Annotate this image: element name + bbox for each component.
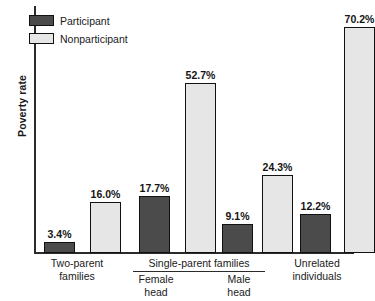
- bar-female-head-participant: 17.7%: [139, 196, 170, 253]
- bar-value-label: 16.0%: [91, 188, 121, 200]
- x-sublabel-line2: head: [118, 286, 194, 299]
- x-label-single-parent-families: Single-parent families: [119, 257, 279, 270]
- bar-value-label: 9.1%: [226, 210, 250, 222]
- bar-rect: [44, 242, 75, 253]
- x-label-line1: Unrelated: [276, 257, 358, 270]
- bar-rect: [300, 214, 331, 253]
- bar-unrelated-nonparticipant: 70.2%: [344, 27, 375, 253]
- bar-rect: [262, 175, 293, 253]
- bar-value-label: 17.7%: [140, 182, 170, 194]
- bar-female-head-nonparticipant: 52.7%: [185, 83, 216, 253]
- x-sublabel-male-head: Male head: [201, 273, 277, 298]
- bar-rect: [185, 83, 216, 253]
- bar-male-head-participant: 9.1%: [222, 224, 253, 253]
- x-label-line1: Two-parent: [22, 257, 132, 270]
- plot-area: 3.4% 16.0% 17.7% 52.7% 9.1% 24.3% 12.2%: [34, 6, 354, 253]
- bar-value-label: 12.2%: [301, 200, 331, 212]
- x-label-line2: individuals: [276, 270, 358, 283]
- x-sublabel-line2: head: [201, 286, 277, 299]
- bar-two-parent-nonparticipant: 16.0%: [90, 202, 121, 254]
- y-axis-title: Poverty rate: [16, 36, 28, 176]
- x-sublabel-line1: Female: [118, 273, 194, 286]
- x-label-unrelated-individuals: Unrelated individuals: [276, 257, 358, 282]
- bar-rect: [90, 202, 121, 254]
- bar-rect: [344, 27, 375, 253]
- bar-rect: [222, 224, 253, 253]
- bar-value-label: 24.3%: [263, 161, 293, 173]
- bar-two-parent-participant: 3.4%: [44, 242, 75, 253]
- x-label-two-parent-families: Two-parent families: [22, 257, 132, 282]
- x-sublabel-female-head: Female head: [118, 273, 194, 298]
- x-sublabel-line1: Male: [201, 273, 277, 286]
- bar-male-head-nonparticipant: 24.3%: [262, 175, 293, 253]
- x-label-line2: families: [22, 270, 132, 283]
- bar-value-label: 70.2%: [345, 13, 375, 25]
- bar-value-label: 3.4%: [48, 228, 72, 240]
- x-label-line1: Single-parent families: [119, 257, 279, 270]
- bar-unrelated-participant: 12.2%: [300, 214, 331, 253]
- bar-rect: [139, 196, 170, 253]
- bar-value-label: 52.7%: [186, 69, 216, 81]
